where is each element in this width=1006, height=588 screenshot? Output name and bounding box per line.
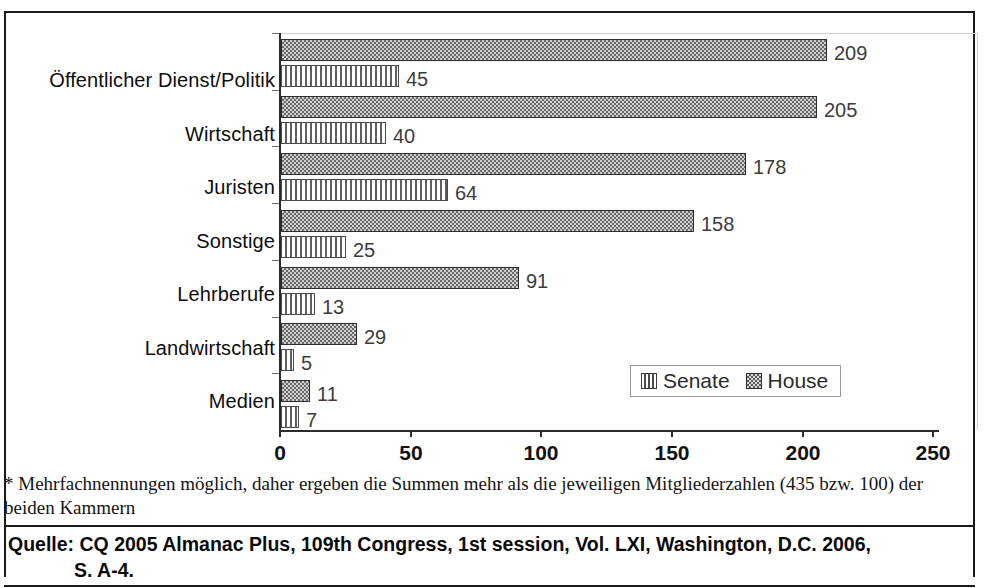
y-tick-2 xyxy=(272,146,279,147)
category-label-0: Öffentlicher Dienst/Politik xyxy=(49,70,275,90)
legend-item-senate[interactable]: Senate xyxy=(641,370,730,391)
source-divider xyxy=(4,525,975,527)
x-axis-line xyxy=(279,430,939,432)
bar-senate-4[interactable] xyxy=(281,293,315,315)
bar-house-2[interactable] xyxy=(281,153,746,175)
senate-swatch-icon xyxy=(641,373,657,389)
bar-house-3[interactable] xyxy=(281,210,694,232)
category-label-6: Medien xyxy=(209,391,275,411)
source-line-2: S. A-4. xyxy=(8,557,963,583)
x-tick-label-2: 100 xyxy=(523,441,558,465)
source-block: Quelle: CQ 2005 Almanac Plus, 109th Cong… xyxy=(8,531,963,584)
x-tick-label-1: 50 xyxy=(399,441,422,465)
source-line-1: Quelle: CQ 2005 Almanac Plus, 109th Cong… xyxy=(8,533,871,555)
y-tick-5 xyxy=(272,317,279,318)
chart-legend: Senate House xyxy=(630,365,841,397)
x-tick-3 xyxy=(671,430,673,437)
value-label-house-6: 11 xyxy=(317,384,338,404)
legend-label-senate: Senate xyxy=(663,370,730,391)
bar-house-1[interactable] xyxy=(281,96,817,118)
x-tick-1 xyxy=(410,430,412,437)
x-tick-5 xyxy=(932,430,934,437)
value-label-senate-2: 64 xyxy=(455,183,477,203)
value-label-senate-4: 13 xyxy=(322,297,344,317)
bar-senate-3[interactable] xyxy=(281,236,346,258)
bar-senate-5[interactable] xyxy=(281,349,294,371)
x-tick-label-4: 200 xyxy=(785,441,820,465)
bar-house-4[interactable] xyxy=(281,267,519,289)
x-tick-label-3: 150 xyxy=(654,441,689,465)
bar-senate-6[interactable] xyxy=(281,406,299,428)
value-label-house-3: 158 xyxy=(701,214,734,234)
bar-house-6[interactable] xyxy=(281,380,310,402)
footnote-text: * Mehrfachnennungen möglich, daher ergeb… xyxy=(4,472,964,521)
y-tick-3 xyxy=(272,203,279,204)
value-label-senate-0: 45 xyxy=(406,69,428,89)
category-label-5: Landwirtschaft xyxy=(145,338,275,358)
y-tick-4 xyxy=(272,260,279,261)
legend-label-house: House xyxy=(768,370,829,391)
x-tick-label-0: 0 xyxy=(274,441,286,465)
value-label-house-2: 178 xyxy=(753,157,786,177)
bar-senate-0[interactable] xyxy=(281,65,399,87)
value-label-house-1: 205 xyxy=(824,100,857,120)
bar-house-0[interactable] xyxy=(281,39,827,61)
bottom-divider xyxy=(4,585,975,587)
category-label-1: Wirtschaft xyxy=(185,124,275,144)
y-tick-6 xyxy=(272,373,279,374)
x-tick-2 xyxy=(540,430,542,437)
value-label-senate-5: 5 xyxy=(301,353,312,373)
x-tick-0 xyxy=(279,430,281,437)
bar-house-5[interactable] xyxy=(281,323,357,345)
value-label-senate-1: 40 xyxy=(393,126,415,146)
y-tick-1 xyxy=(272,90,279,91)
value-label-house-4: 91 xyxy=(526,271,548,291)
x-tick-4 xyxy=(802,430,804,437)
y-tick-0 xyxy=(272,33,279,34)
bar-senate-2[interactable] xyxy=(281,179,448,201)
legend-item-house[interactable]: House xyxy=(746,370,829,391)
bar-chart: Öffentlicher Dienst/Politik Wirtschaft J… xyxy=(6,13,977,468)
category-label-2: Juristen xyxy=(204,177,275,197)
value-label-house-0: 209 xyxy=(834,43,867,63)
x-tick-label-5: 250 xyxy=(915,441,950,465)
value-label-senate-6: 7 xyxy=(306,410,317,430)
category-label-3: Sonstige xyxy=(196,231,275,251)
value-label-house-5: 29 xyxy=(364,327,386,347)
category-label-4: Lehrberufe xyxy=(177,284,275,304)
value-label-senate-3: 25 xyxy=(353,240,375,260)
bar-senate-1[interactable] xyxy=(281,122,386,144)
house-swatch-icon xyxy=(746,373,762,389)
